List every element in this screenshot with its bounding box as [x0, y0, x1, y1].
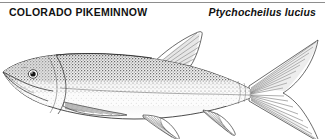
anal-fin [203, 110, 235, 135]
top-divider-rule [0, 2, 325, 3]
common-name-label: COLORADO PIKEMINNOW [9, 5, 147, 19]
pelvic-fin [143, 115, 179, 139]
species-plate: COLORADO PIKEMINNOW Ptychocheilus lucius [0, 0, 325, 139]
species-header: COLORADO PIKEMINNOW Ptychocheilus lucius [0, 5, 325, 23]
eye [28, 70, 37, 79]
scientific-name-label: Ptychocheilus lucius [209, 5, 316, 19]
fish-drawing-canvas [0, 22, 325, 139]
fish-illustration [0, 22, 325, 139]
caudal-fin [249, 40, 319, 139]
